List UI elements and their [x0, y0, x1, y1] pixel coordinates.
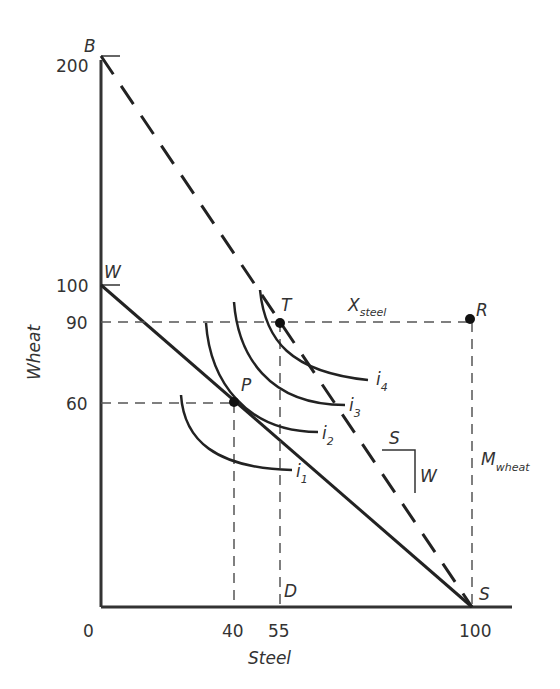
x-tick-label-55: 55	[268, 621, 290, 641]
y-tick-label-100: 100	[56, 276, 88, 296]
origin-label: 0	[83, 621, 94, 641]
label-s: S	[479, 584, 490, 604]
label-p: P	[241, 375, 252, 395]
trade-diagram: B 200 W 100 90 60 Wheat T P R D S Xsteel…	[0, 0, 560, 689]
point-p	[229, 397, 239, 407]
y-axis-label: Wheat	[24, 324, 44, 380]
y-tick-label-90: 90	[66, 313, 88, 333]
point-t	[275, 318, 285, 328]
label-w: W	[104, 262, 122, 282]
point-r	[465, 314, 475, 324]
label-i2: i2	[322, 423, 334, 448]
label-m-wheat: Mwheat	[481, 449, 530, 474]
x-tick-label-40: 40	[222, 621, 244, 641]
label-slope-w: W	[420, 466, 438, 486]
label-x-steel: Xsteel	[347, 295, 386, 319]
indifference-curve-i2	[206, 323, 318, 432]
label-b: B	[84, 36, 96, 56]
x-tick-label-100: 100	[459, 621, 491, 641]
label-t: T	[281, 295, 293, 315]
label-r: R	[476, 300, 488, 320]
label-i4: i4	[376, 369, 388, 394]
label-slope-s: S	[389, 428, 400, 448]
label-i3: i3	[349, 395, 361, 420]
y-tick-label-60: 60	[66, 394, 88, 414]
slope-triangle	[382, 450, 415, 493]
x-axis-label: Steel	[248, 648, 291, 668]
y-tick-label-200: 200	[56, 56, 88, 76]
label-d: D	[284, 581, 297, 601]
